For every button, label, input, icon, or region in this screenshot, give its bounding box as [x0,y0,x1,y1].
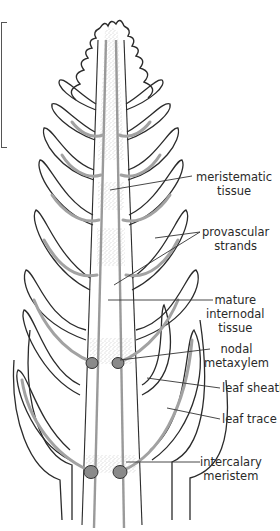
label-line: meristematic [196,170,272,184]
label-line: mature [206,293,264,307]
apical-meristem-stipple [98,27,124,160]
label-line: nodal [204,342,269,356]
label-line: provascular [202,225,269,239]
label-leaf-sheath: leaf sheath [222,381,280,395]
label-line: intercalary [200,455,262,469]
label-line: tissue [206,321,264,335]
shoot-apex-diagram [0,0,280,531]
label-line: leaf trace [222,412,277,426]
label-line: meristem [200,469,262,483]
leaf-traces [22,122,192,470]
label-line: strands [202,239,269,253]
label-provascular-strands: provascular strands [202,225,269,253]
label-leaf-trace: leaf trace [222,412,277,426]
label-line: leaf sheath [222,381,280,395]
label-nodal-metaxylem: nodal metaxylem [204,342,269,370]
label-line: metaxylem [204,356,269,370]
label-line: internodal [206,307,264,321]
label-meristematic-tissue: meristematic tissue [196,170,272,198]
label-intercalary-meristem: intercalary meristem [200,455,262,483]
label-line: tissue [196,184,272,198]
label-mature-internodal-tissue: mature internodal tissue [206,293,264,335]
